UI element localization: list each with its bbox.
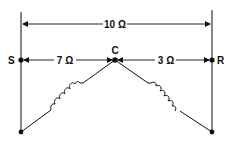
winding-start bbox=[21, 60, 115, 132]
dimension-s-to-c: 7 Ω bbox=[24, 55, 112, 66]
terminal-s-dot bbox=[18, 57, 23, 62]
dimension-c-to-r: 3 Ω bbox=[118, 55, 209, 66]
terminal-r-label: R bbox=[217, 55, 225, 66]
bottom-right-dot bbox=[210, 130, 215, 135]
label-10-ohm: 10 Ω bbox=[104, 19, 126, 30]
label-3-ohm: 3 Ω bbox=[158, 55, 174, 66]
terminal-s-label: S bbox=[8, 55, 15, 66]
winding-diagram: 10 Ω 7 Ω 3 Ω S C R bbox=[0, 0, 236, 141]
label-7-ohm: 7 Ω bbox=[57, 55, 73, 66]
terminal-c-label: C bbox=[111, 45, 118, 56]
bottom-left-dot bbox=[19, 130, 24, 135]
dimension-s-to-r: 10 Ω bbox=[23, 19, 210, 30]
terminal-r-dot bbox=[209, 57, 214, 62]
terminal-c-dot bbox=[112, 57, 118, 63]
winding-run bbox=[115, 60, 212, 132]
